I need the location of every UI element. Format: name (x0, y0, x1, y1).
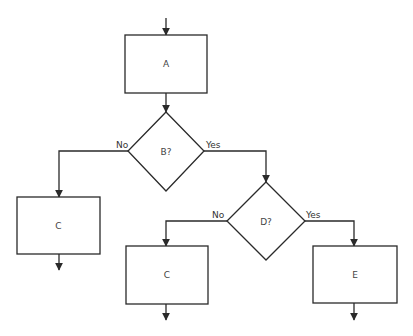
process-node-c-middle[interactable]: C (126, 246, 208, 304)
node-c-left-label: C (55, 221, 61, 231)
node-c-middle-label: C (164, 270, 170, 280)
edge-label-b-no: No (116, 140, 129, 150)
decision-node-d[interactable]: D? (227, 182, 305, 260)
node-a-label: A (163, 59, 170, 69)
process-node-e[interactable]: E (313, 246, 397, 303)
arrow-b-no (59, 151, 128, 197)
edge-label-d-no: No (212, 210, 225, 220)
arrow-b-yes (204, 151, 266, 182)
node-b-label: B? (161, 147, 172, 157)
node-d-label: D? (260, 217, 272, 227)
flowchart-canvas: A B? No Yes C D? No Yes C E (0, 0, 413, 336)
decision-node-b[interactable]: B? (128, 112, 204, 191)
process-node-c-left[interactable]: C (17, 197, 100, 254)
arrow-d-yes (305, 221, 354, 246)
arrow-d-no (166, 221, 227, 246)
node-e-label: E (352, 270, 358, 280)
edge-label-d-yes: Yes (305, 210, 321, 220)
edge-label-b-yes: Yes (205, 140, 221, 150)
process-node-a[interactable]: A (125, 35, 207, 93)
